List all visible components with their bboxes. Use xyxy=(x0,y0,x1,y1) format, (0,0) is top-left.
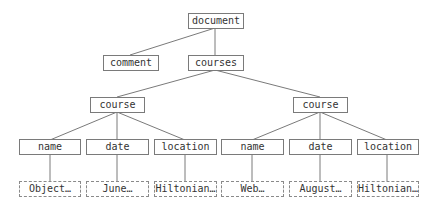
node-name-2: name xyxy=(221,139,284,155)
node-date-1-value: June… xyxy=(86,181,149,197)
tree-edges xyxy=(0,0,434,208)
node-date-1: date xyxy=(86,139,149,155)
node-course-2: course xyxy=(293,97,348,113)
node-comment: comment xyxy=(103,55,159,71)
node-document: document xyxy=(188,13,244,29)
node-courses: courses xyxy=(188,55,244,71)
node-name-1: name xyxy=(19,139,81,155)
node-name-1-value: Object… xyxy=(19,181,81,197)
node-date-2-value: August… xyxy=(289,181,352,197)
node-course-1: course xyxy=(90,97,145,113)
node-name-2-value: Web… xyxy=(221,181,284,197)
document-tree-diagram: document comment courses course course n… xyxy=(0,0,434,208)
node-date-2: date xyxy=(289,139,352,155)
node-location-2: location xyxy=(357,139,419,155)
node-location-1-value: Hiltonian… xyxy=(154,181,217,197)
node-location-2-value: Hiltonian… xyxy=(357,181,419,197)
node-location-1: location xyxy=(154,139,217,155)
